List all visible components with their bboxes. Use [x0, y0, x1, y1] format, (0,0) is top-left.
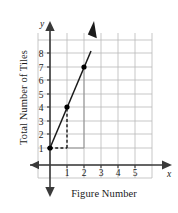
data-point	[64, 104, 69, 109]
x-tick-label: 2	[82, 168, 87, 178]
y-tick-label: 2	[39, 130, 44, 140]
y-tick-label: 1	[39, 144, 44, 154]
graph-figure: y x 1 2 3 4 5 6 7 8 1 2 3	[0, 0, 178, 213]
x-tick-label: 4	[116, 168, 121, 178]
grid-lines	[38, 33, 152, 178]
y-axis-letter: y	[39, 19, 45, 29]
x-tick-label: 5	[133, 168, 138, 178]
x-tick-label: 3	[99, 168, 104, 178]
x-tick-label: 1	[65, 168, 70, 178]
y-axis-title: Total Number of Tiles	[18, 28, 29, 168]
x-axis-title: Figure Number	[55, 188, 153, 199]
y-axis	[45, 21, 54, 197]
y-tick-label: 6	[39, 76, 44, 86]
y-tick-label: 8	[39, 49, 44, 59]
data-point	[47, 145, 52, 150]
y-tick-labels: 1 2 3 4 5 6 7 8	[39, 49, 44, 154]
y-tick-label: 3	[39, 117, 44, 127]
data-point	[81, 64, 86, 69]
y-tick-label: 5	[39, 90, 44, 100]
y-tick-label: 7	[39, 63, 44, 73]
y-tick-label: 4	[39, 103, 44, 113]
x-axis-letter: x	[166, 169, 172, 179]
x-tick-labels: 1 2 3 4 5	[65, 168, 138, 178]
